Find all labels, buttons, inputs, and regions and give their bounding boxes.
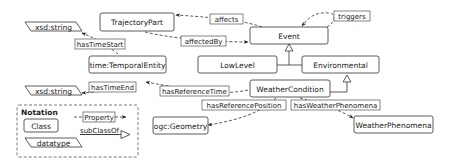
notation-class-sample: Class <box>24 119 58 132</box>
property-has-time-start[interactable]: hasTimeStart <box>75 39 125 49</box>
property-affects[interactable]: affects <box>210 14 243 24</box>
class-weather-phenomena[interactable]: WeatherPhenomena <box>354 116 433 133</box>
class-label: Environmental <box>313 61 368 70</box>
class-temporal-entity[interactable]: time:TemporalEntity <box>89 56 166 73</box>
property-label: hasReferenceTime <box>162 88 227 96</box>
property-label: affects <box>215 16 239 24</box>
property-has-time-end[interactable]: hasTimeEnd <box>89 82 136 92</box>
class-label: TrajectoryPart <box>110 18 163 27</box>
subclass-arrowhead-icon <box>121 131 130 139</box>
edge-subclass-weathercondition <box>330 82 347 92</box>
property-has-weather-phenomena[interactable]: hasWeatherPhenomena <box>291 100 380 110</box>
class-label: ogc:Geometry <box>154 122 208 131</box>
property-label: hasWeatherPhenomena <box>294 102 377 110</box>
class-label: WeatherPhenomena <box>355 121 431 130</box>
class-low-level[interactable]: LowLevel <box>198 56 277 73</box>
datatype-xsd-string-start[interactable]: xsd:string <box>25 22 82 32</box>
property-label: affectedBy <box>185 38 223 46</box>
property-label: hasTimeEnd <box>91 84 134 92</box>
edge-subclass-lowlevel <box>277 51 289 65</box>
property-affected-by[interactable]: affectedBy <box>181 36 226 46</box>
class-event[interactable]: Event <box>250 27 328 44</box>
property-label: hasTimeStart <box>77 41 124 49</box>
edge-triggers <box>302 13 334 27</box>
notation-property-sample: Property <box>74 112 126 122</box>
class-label: time:TemporalEntity <box>90 61 166 70</box>
property-has-reference-time[interactable]: hasReferenceTime <box>160 86 229 96</box>
notation-subclass-sample: subClassOf <box>80 127 130 139</box>
property-label: triggers <box>338 13 366 21</box>
notation-property-label: Property <box>84 114 114 122</box>
class-trajectory-part[interactable]: TrajectoryPart <box>100 13 174 31</box>
class-geometry[interactable]: ogc:Geometry <box>153 117 208 134</box>
datatype-label: xsd:string <box>35 87 72 96</box>
notation-class-label: Class <box>31 122 51 131</box>
class-environmental[interactable]: Environmental <box>302 56 379 73</box>
property-has-reference-position[interactable]: hasReferencePosition <box>202 100 286 110</box>
notation-datatype-sample: datatype <box>25 138 82 148</box>
class-label: WeatherCondition <box>256 85 324 94</box>
notation-legend: Notation Class datatype Property subClas… <box>17 105 138 157</box>
class-weather-condition[interactable]: WeatherCondition <box>250 80 330 97</box>
property-triggers[interactable]: triggers <box>334 11 370 21</box>
property-label: hasReferencePosition <box>207 102 282 110</box>
datatype-xsd-string-end[interactable]: xsd:string <box>25 86 82 96</box>
notation-subclass-label: subClassOf <box>80 127 119 135</box>
class-label: Event <box>278 32 300 41</box>
subclass-arrowhead-event <box>285 44 293 51</box>
ontology-diagram: TrajectoryPart Event time:TemporalEntity… <box>0 0 450 166</box>
datatype-label: xsd:string <box>35 23 72 32</box>
notation-datatype-label: datatype <box>37 139 71 148</box>
notation-title: Notation <box>21 108 58 117</box>
class-label: LowLevel <box>220 61 255 70</box>
subclass-arrowhead-environmental <box>343 75 351 82</box>
